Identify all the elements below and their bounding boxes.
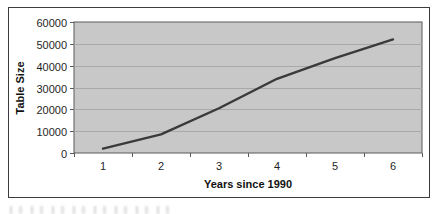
x-tick-label: 2: [158, 160, 164, 172]
line-chart: 0100002000030000400005000060000123456 Ta…: [0, 0, 436, 214]
x-tick-label: 5: [332, 160, 338, 172]
cutoff-caption-remnant: [10, 206, 175, 214]
y-axis-title: Table Size: [14, 62, 26, 115]
plot-area: [74, 22, 422, 153]
y-tick-label: 50000: [36, 39, 67, 51]
y-tick-label: 20000: [36, 104, 67, 116]
x-tick-label: 4: [274, 160, 280, 172]
chart-screenshot: 0100002000030000400005000060000123456 Ta…: [0, 0, 436, 214]
plot-area-group: 0100002000030000400005000060000123456: [36, 17, 422, 173]
x-tick-label: 3: [216, 160, 222, 172]
x-axis-title: Years since 1990: [204, 178, 292, 190]
x-tick-label: 1: [100, 160, 106, 172]
x-tick-label: 6: [390, 160, 396, 172]
y-tick-label: 0: [61, 148, 67, 160]
y-tick-label: 40000: [36, 61, 67, 73]
y-tick-label: 10000: [36, 126, 67, 138]
y-tick-label: 60000: [36, 17, 67, 29]
y-tick-label: 30000: [36, 83, 67, 95]
